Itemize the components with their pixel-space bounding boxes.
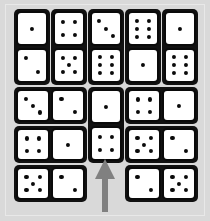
pip-dot (31, 181, 35, 185)
domino-half-1 (90, 89, 122, 124)
domino-half-1 (51, 128, 85, 161)
domino-half-4 (53, 11, 85, 46)
pip-dot (110, 148, 114, 152)
domino-tile[interactable] (51, 9, 87, 85)
pip-dot (98, 55, 102, 59)
pip-dot (73, 33, 77, 37)
domino-tile[interactable] (14, 126, 87, 163)
pip-dot (24, 175, 28, 179)
domino-half-3 (90, 11, 122, 46)
domino-tile[interactable] (125, 165, 198, 202)
pip-dot (136, 110, 140, 114)
pip-dot (104, 105, 108, 109)
pip-dot (149, 136, 153, 140)
pip-dot (170, 188, 174, 192)
arrow-head (95, 159, 115, 212)
domino-tile[interactable] (162, 9, 198, 85)
pip-dot (170, 136, 174, 140)
pip-dot (172, 55, 176, 59)
domino-tile[interactable] (125, 87, 198, 124)
domino-half-5 (162, 167, 196, 200)
pip-dot (73, 56, 77, 60)
pip-dot (110, 71, 114, 75)
domino-tile[interactable] (14, 9, 50, 85)
domino-tile[interactable] (14, 165, 87, 202)
pip-dot (172, 71, 176, 75)
pip-dot (110, 63, 114, 67)
pip-dot (30, 27, 34, 31)
domino-tile[interactable] (14, 87, 87, 124)
pip-dot (59, 97, 63, 101)
domino-tile[interactable] (125, 9, 161, 85)
pip-dot (36, 70, 40, 74)
domino-half-2 (51, 89, 85, 122)
pip-dot (25, 149, 29, 153)
pip-dot (59, 175, 63, 179)
domino-half-3 (16, 89, 50, 122)
pip-dot (184, 63, 188, 67)
pip-dot (38, 175, 42, 179)
pip-dot (135, 149, 139, 153)
pip-dot (67, 63, 71, 67)
pip-dot (147, 27, 151, 31)
pip-dot (149, 149, 153, 153)
domino-tile[interactable] (88, 87, 124, 163)
pip-dot (97, 19, 101, 23)
pip-dot (172, 63, 176, 67)
pip-dot (98, 63, 102, 67)
domino-half-1 (127, 48, 159, 83)
pip-dot (184, 55, 188, 59)
pip-dot (177, 181, 181, 185)
domino-half-5 (53, 48, 85, 83)
pip-dot (147, 19, 151, 23)
pip-dot (170, 175, 174, 179)
pip-dot (135, 175, 139, 179)
domino-tile[interactable] (125, 126, 198, 163)
up-arrow-pointer (94, 159, 116, 212)
domino-tile[interactable] (88, 9, 124, 85)
pip-dot (98, 135, 102, 139)
pip-dot (73, 70, 77, 74)
domino-half-2 (51, 167, 85, 200)
pip-dot (61, 33, 65, 37)
pip-dot (73, 20, 77, 24)
pip-dot (37, 149, 41, 153)
domino-half-2 (162, 128, 196, 161)
pip-dot (142, 142, 146, 146)
pip-dot (61, 56, 65, 60)
pip-dot (24, 56, 28, 60)
pip-dot (147, 35, 151, 39)
domino-half-6 (90, 48, 122, 83)
domino-half-1 (164, 11, 196, 46)
domino-half-2 (127, 167, 161, 200)
pip-dot (148, 110, 152, 114)
domino-half-1 (162, 89, 196, 122)
pip-dot (61, 20, 65, 24)
pip-dot (25, 136, 29, 140)
pip-dot (184, 149, 188, 153)
pip-dot (135, 27, 139, 31)
pip-dot (177, 103, 181, 107)
pip-dot (111, 34, 115, 38)
pip-dot (61, 70, 65, 74)
domino-half-4 (127, 89, 161, 122)
pip-dot (73, 188, 77, 192)
domino-half-2 (16, 48, 48, 83)
pip-dot (38, 188, 42, 192)
pip-dot (135, 19, 139, 23)
domino-half-1 (16, 11, 48, 46)
pip-dot (149, 188, 153, 192)
pip-dot (66, 142, 70, 146)
pip-dot (178, 27, 182, 31)
pip-dot (135, 136, 139, 140)
pip-dot (135, 35, 139, 39)
pip-dot (141, 63, 145, 67)
domino-board (0, 0, 210, 221)
pip-dot (73, 110, 77, 114)
domino-half-4 (16, 128, 50, 161)
pip-dot (136, 97, 140, 101)
domino-half-5 (127, 128, 161, 161)
pip-dot (184, 188, 188, 192)
pip-dot (38, 110, 42, 114)
pip-dot (110, 135, 114, 139)
